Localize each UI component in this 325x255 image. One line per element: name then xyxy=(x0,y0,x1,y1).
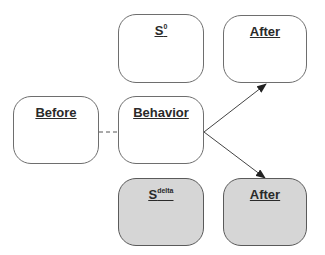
arrow-behavior-to-after-top xyxy=(204,84,266,132)
s-delta-base: S xyxy=(148,187,157,202)
behavior-box: Behavior xyxy=(118,96,204,164)
arrow-behavior-to-after-bottom xyxy=(204,132,265,178)
after-top-box: After xyxy=(223,15,307,83)
behavior-label: Behavior xyxy=(133,105,189,120)
before-label: Before xyxy=(35,105,76,120)
s-delta-label: Sdelta xyxy=(148,187,173,202)
s-zero-superscript: 0 xyxy=(163,23,167,30)
s-delta-superscript: delta xyxy=(157,187,173,194)
s-zero-box: S0 xyxy=(118,14,204,83)
s-zero-label: S0 xyxy=(155,23,168,38)
before-box: Before xyxy=(13,96,99,164)
after-bottom-box: After xyxy=(223,178,307,246)
after-top-label: After xyxy=(250,24,280,39)
s-delta-box: Sdelta xyxy=(118,178,204,246)
after-bottom-label: After xyxy=(250,187,280,202)
